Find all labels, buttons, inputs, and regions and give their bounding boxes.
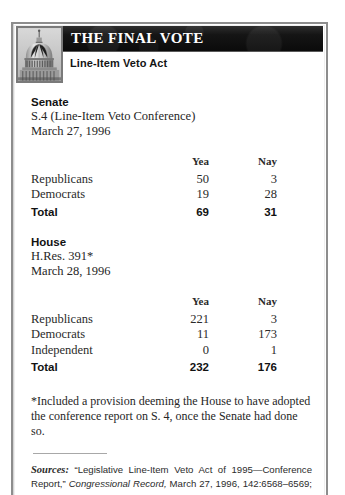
- row-yea: 0: [143, 343, 209, 359]
- column-header-yea: Yea: [143, 294, 209, 312]
- row-nay: 3: [209, 312, 277, 328]
- total-label: Total: [31, 203, 143, 221]
- card-titlebar: THE FINAL VOTE: [55, 25, 323, 52]
- total-label: Total: [31, 358, 143, 376]
- sources-divider: [33, 453, 107, 454]
- row-nay: 3: [209, 172, 277, 188]
- card-content: Senate S.4 (Line-Item Veto Conference) M…: [31, 96, 314, 495]
- table-row: Republicans 221 3: [31, 312, 277, 328]
- house-section: House H.Res. 391* March 28, 1996 Yea Nay…: [31, 236, 314, 376]
- row-nay: 1: [209, 343, 277, 359]
- row-party: Democrats: [31, 327, 143, 343]
- column-header-nay: Nay: [209, 294, 277, 312]
- footnote: *Included a provision deeming the House …: [31, 394, 311, 439]
- senate-bill-line: S.4 (Line-Item Veto Conference): [31, 109, 314, 124]
- row-nay: 173: [209, 327, 277, 343]
- table-header-row: Yea Nay: [31, 294, 277, 312]
- table-row: Democrats 19 28: [31, 187, 277, 203]
- total-yea: 232: [143, 358, 209, 376]
- house-chamber-label: House: [31, 236, 314, 248]
- table-row: Independent 0 1: [31, 343, 277, 359]
- final-vote-card: THE FINAL VOTE: [11, 22, 328, 495]
- column-header-party: [31, 294, 143, 312]
- house-vote-table: Yea Nay Republicans 221 3 Democrats 11 1…: [31, 294, 277, 376]
- capitol-dome-icon: [16, 26, 63, 83]
- senate-total-row: Total 69 31: [31, 203, 277, 221]
- row-yea: 50: [143, 172, 209, 188]
- house-date-line: March 28, 1996: [31, 264, 314, 279]
- column-header-party: [31, 154, 143, 172]
- house-total-row: Total 232 176: [31, 358, 277, 376]
- row-party: Republicans: [31, 172, 143, 188]
- senate-vote-table: Yea Nay Republicans 50 3 Democrats 19 28: [31, 154, 277, 220]
- row-yea: 221: [143, 312, 209, 328]
- sources-italic-citation: Congressional Record,: [69, 478, 167, 489]
- row-nay: 28: [209, 187, 277, 203]
- card-subtitle: Line-Item Veto Act: [70, 57, 167, 69]
- total-yea: 69: [143, 203, 209, 221]
- section-spacer: [31, 222, 314, 236]
- row-yea: 19: [143, 187, 209, 203]
- total-nay: 176: [209, 358, 277, 376]
- row-party: Democrats: [31, 187, 143, 203]
- total-nay: 31: [209, 203, 277, 221]
- sources-block: Sources: “Legislative Line-Item Veto Act…: [31, 463, 312, 495]
- row-party: Republicans: [31, 312, 143, 328]
- senate-date-line: March 27, 1996: [31, 124, 314, 139]
- column-header-yea: Yea: [143, 154, 209, 172]
- page-title: THE FINAL VOTE: [71, 30, 204, 47]
- row-yea: 11: [143, 327, 209, 343]
- row-party: Independent: [31, 343, 143, 359]
- senate-section: Senate S.4 (Line-Item Veto Conference) M…: [31, 96, 314, 220]
- table-header-row: Yea Nay: [31, 154, 277, 172]
- sources-label: Sources:: [31, 464, 69, 475]
- senate-chamber-label: Senate: [31, 96, 314, 108]
- table-row: Republicans 50 3: [31, 172, 277, 188]
- column-header-nay: Nay: [209, 154, 277, 172]
- house-bill-line: H.Res. 391*: [31, 249, 314, 264]
- table-row: Democrats 11 173: [31, 327, 277, 343]
